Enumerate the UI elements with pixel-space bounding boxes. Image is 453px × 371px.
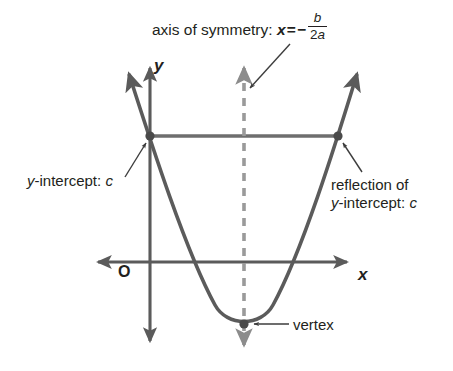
y-intercept-variable: y: [27, 172, 35, 189]
fraction-denominator: 2a: [308, 28, 327, 42]
reflection-line1: reflection of: [331, 176, 417, 194]
fraction-numerator: b: [308, 11, 327, 25]
minus-sign: −: [297, 21, 308, 38]
y-intercept-text: -intercept:: [35, 172, 106, 189]
y-intercept-point: [145, 131, 154, 140]
reflection-leader: [343, 143, 362, 172]
axis-of-symmetry-label: axis of symmetry: x=−b2a: [152, 14, 327, 45]
y-axis-label: y: [154, 56, 163, 76]
reflection-variable: y: [331, 194, 339, 211]
origin-label: O: [118, 263, 130, 282]
equals-sign: =: [286, 21, 297, 38]
reflection-point: [333, 131, 342, 140]
reflection-text: -intercept:: [339, 194, 410, 211]
y-intercept-label: y-intercept: c: [27, 172, 113, 190]
x-axis-label: x: [358, 265, 367, 285]
vertex-point: [239, 319, 248, 328]
axis-of-symmetry-text: axis of symmetry:: [152, 21, 273, 38]
vertex-label: vertex: [293, 316, 334, 334]
fraction-b-over-2a: b2a: [308, 11, 327, 42]
reflection-label: reflection of y-intercept: c: [331, 176, 417, 211]
y-intercept-leader: [125, 143, 146, 177]
axis-of-symmetry-leader: [250, 44, 290, 88]
denominator-variable: a: [317, 27, 325, 42]
y-intercept-value: c: [105, 172, 113, 189]
axis-of-symmetry-variable: x: [277, 21, 286, 38]
reflection-line2: y-intercept: c: [331, 194, 417, 212]
parabola-diagram: axis of symmetry: x=−b2a y-intercept: c …: [0, 0, 453, 371]
reflection-value: c: [409, 194, 417, 211]
